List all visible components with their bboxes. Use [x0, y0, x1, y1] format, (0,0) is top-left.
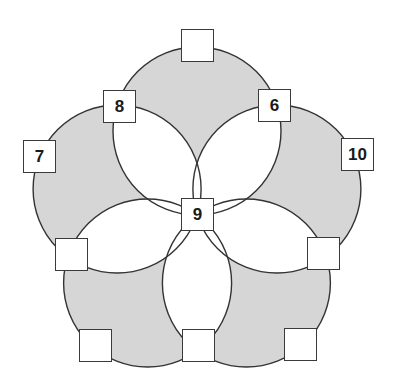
number-box-center[interactable]: 9 [181, 198, 214, 231]
number-box-right-outer[interactable]: 10 [341, 138, 374, 171]
number-box-upper-right-inner[interactable]: 6 [258, 89, 291, 122]
number-box-top-outer[interactable] [181, 29, 214, 62]
number-box-lower-left-inner[interactable] [55, 238, 88, 271]
number-box-bottom-middle-inner[interactable] [182, 329, 215, 362]
number-box-bottom-left-outer[interactable] [79, 329, 112, 362]
number-box-left-outer[interactable]: 7 [23, 140, 56, 173]
number-box-upper-left-inner[interactable]: 8 [103, 90, 136, 123]
number-box-lower-right-inner[interactable] [307, 237, 340, 270]
number-box-bottom-right-outer[interactable] [284, 328, 317, 361]
